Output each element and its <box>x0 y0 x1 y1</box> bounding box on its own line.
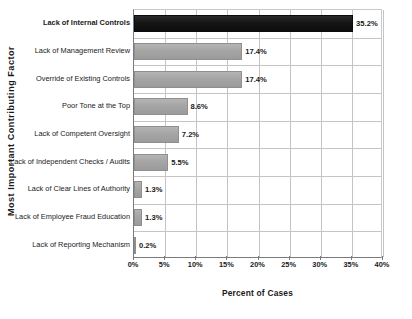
x-tick-mark <box>226 256 227 260</box>
x-tick-label: 5% <box>159 260 170 269</box>
bar-value-label: 17.4% <box>245 71 267 88</box>
x-tick-mark <box>195 256 196 260</box>
bar-value-label: 5.5% <box>171 154 188 171</box>
x-tick-mark <box>258 256 259 260</box>
bar <box>134 98 188 115</box>
category-label: Lack of Internal Controls <box>43 14 130 31</box>
gridline-horizontal <box>134 93 381 94</box>
gridline-horizontal <box>134 65 381 66</box>
x-tick-label: 20% <box>250 260 265 269</box>
gridline-horizontal <box>134 148 381 149</box>
x-tick-mark <box>289 256 290 260</box>
gridline-vertical <box>321 10 322 257</box>
gridline-vertical <box>352 10 353 257</box>
bar <box>134 15 353 32</box>
bar <box>134 126 179 143</box>
plot-area: 35.2%17.4%17.4%8.6%7.2%5.5%1.3%1.3%0.2% <box>133 9 382 258</box>
category-label: Lack of Clear Lines of Authority <box>28 180 130 197</box>
bar <box>134 154 168 171</box>
x-tick-label: 40% <box>375 260 390 269</box>
bar-value-label: 17.4% <box>245 43 267 60</box>
bar-value-label: 8.6% <box>191 98 208 115</box>
category-label: Override of Existing Controls <box>36 70 130 87</box>
bar-value-label: 1.3% <box>145 181 162 198</box>
bar-chart: Most Important Contributing Factor Lack … <box>0 0 412 319</box>
bar <box>134 71 242 88</box>
bar-value-label: 7.2% <box>182 126 199 143</box>
x-tick-label: 0% <box>128 260 139 269</box>
gridline-vertical <box>383 10 384 257</box>
gridline-horizontal <box>134 38 381 39</box>
x-tick-label: 30% <box>312 260 327 269</box>
bar <box>134 43 242 60</box>
x-tick-label: 35% <box>343 260 358 269</box>
x-tick-mark <box>351 256 352 260</box>
category-label: Lack of Employee Fraud Education <box>15 208 130 225</box>
x-axis-ticks: 0%5%10%15%20%25%30%35%40% <box>133 260 382 274</box>
category-label: Poor Tone at the Top <box>62 97 130 114</box>
bar-value-label: 0.2% <box>139 237 156 254</box>
bar-value-label: 1.3% <box>145 209 162 226</box>
x-tick-label: 15% <box>219 260 234 269</box>
x-tick-mark <box>133 256 134 260</box>
gridline-horizontal <box>134 204 381 205</box>
x-tick-mark <box>320 256 321 260</box>
gridline-horizontal <box>134 121 381 122</box>
category-label: Lack of Reporting Mechanism <box>32 236 130 253</box>
bar <box>134 209 142 226</box>
x-tick-mark <box>382 256 383 260</box>
category-label: Lack of Management Review <box>35 42 130 59</box>
x-tick-label: 25% <box>281 260 296 269</box>
x-axis-title: Percent of Cases <box>133 288 382 298</box>
gridline-horizontal <box>134 231 381 232</box>
x-tick-mark <box>164 256 165 260</box>
bar <box>134 237 136 254</box>
y-axis-title-text: Most Important Contributing Factor <box>6 46 16 216</box>
bar-value-label: 35.2% <box>356 15 378 32</box>
bar <box>134 181 142 198</box>
category-axis-labels: Lack of Internal ControlsLack of Managem… <box>20 9 132 258</box>
x-tick-label: 10% <box>188 260 203 269</box>
gridline-vertical <box>290 10 291 257</box>
category-label: Lack of Independent Checks / Audits <box>10 153 130 170</box>
category-label: Lack of Competent Oversight <box>34 125 130 142</box>
gridline-horizontal <box>134 176 381 177</box>
